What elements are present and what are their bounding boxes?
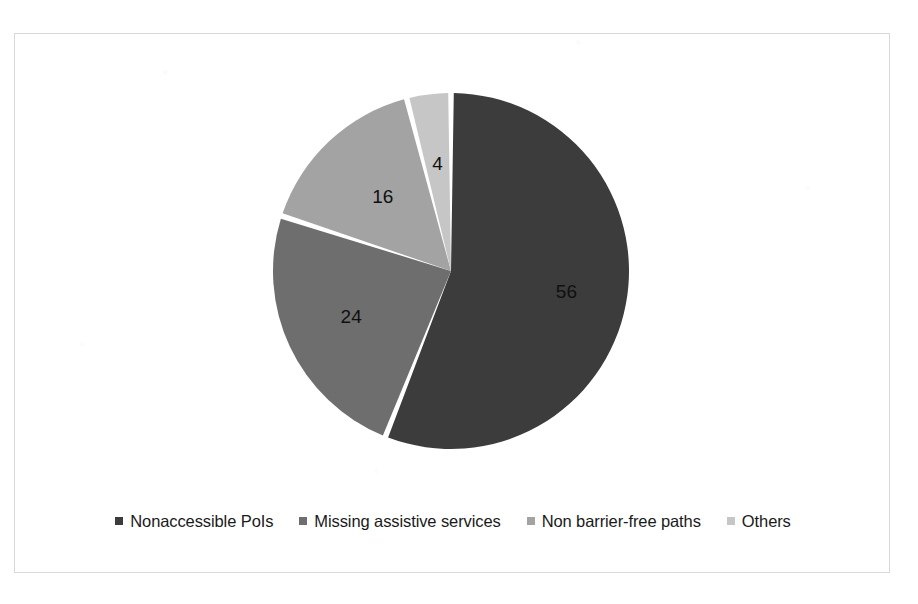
legend-item-label: Missing assistive services [314,512,500,531]
chart-frame: 5624164 Nonaccessible PoIsMissing assist… [14,33,890,573]
legend-swatch-icon [527,517,535,525]
pie-slice-group [273,93,629,449]
legend-item-label: Non barrier-free paths [542,512,701,531]
pie-slice-data-label: 4 [432,153,443,174]
pie-slice-data-label: 16 [372,186,393,207]
legend-swatch-icon [115,517,123,525]
legend-item[interactable]: Nonaccessible PoIs [115,512,273,531]
pie-chart: 5624164 [15,34,891,494]
legend-swatch-icon [727,517,735,525]
legend-item-label: Others [742,512,791,531]
pie-chart-plot-area: 5624164 [15,34,891,494]
legend-item[interactable]: Others [727,512,791,531]
legend-item[interactable]: Non barrier-free paths [527,512,701,531]
pie-slice-data-label: 56 [556,281,577,302]
pie-slice-data-label: 24 [341,306,363,327]
legend-item[interactable]: Missing assistive services [299,512,500,531]
legend-item-label: Nonaccessible PoIs [130,512,273,531]
chart-legend: Nonaccessible PoIsMissing assistive serv… [15,496,891,546]
legend-swatch-icon [299,517,307,525]
